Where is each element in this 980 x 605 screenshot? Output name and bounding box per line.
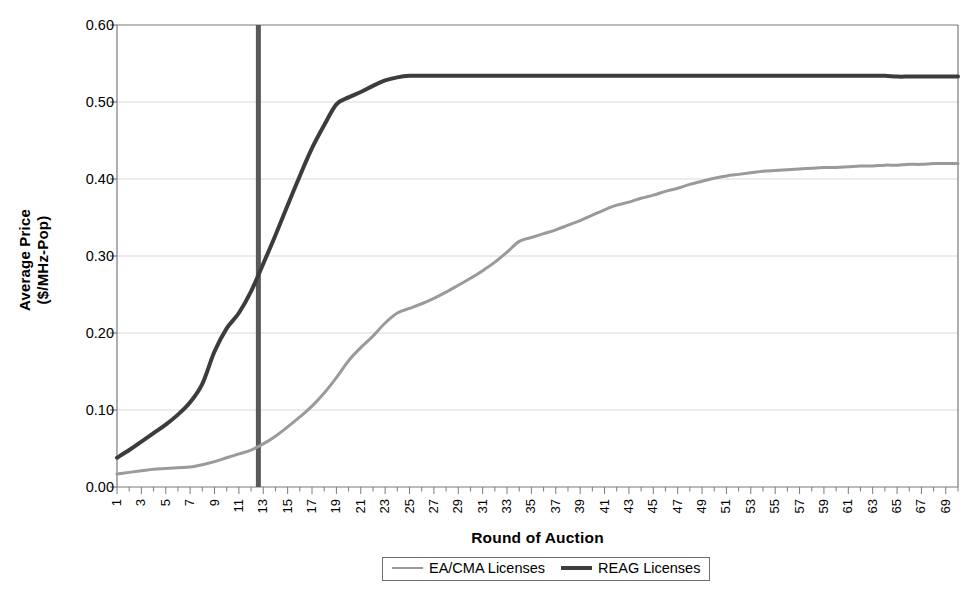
x-axis-tick-label: 31 <box>483 499 490 513</box>
x-axis-tick-label: 63 <box>873 499 880 513</box>
x-axis-tick-label: 43 <box>629 499 636 513</box>
x-axis-tick-label: 3 <box>141 499 148 506</box>
chart-legend: EA/CMA LicensesREAG Licenses <box>382 557 710 581</box>
x-axis-title: Round of Auction <box>117 529 958 547</box>
x-axis-tick-label: 33 <box>507 499 514 513</box>
x-axis-tick-label: 49 <box>702 499 709 513</box>
x-axis-tick-label: 17 <box>312 499 319 513</box>
x-axis-tick-label: 55 <box>775 499 782 513</box>
legend-item-label: REAG Licenses <box>598 561 700 576</box>
x-axis-tick-label: 21 <box>361 499 368 513</box>
chart-figure: 0.000.100.200.300.400.500.60 Average Pri… <box>0 0 980 605</box>
x-axis-tick-label: 5 <box>166 499 173 506</box>
x-axis-tick-label: 29 <box>458 499 465 513</box>
x-axis-tick-label: 45 <box>653 499 660 513</box>
x-axis-tick-label: 57 <box>800 499 807 513</box>
x-axis-tick-label: 59 <box>824 499 831 513</box>
legend-item[interactable]: REAG Licenses <box>561 561 700 576</box>
x-axis-tick-label: 23 <box>385 499 392 513</box>
x-axis-tick-label: 65 <box>897 499 904 513</box>
x-axis-tick-label: 27 <box>434 499 441 513</box>
x-axis-tick-label: 69 <box>946 499 953 513</box>
x-axis-tick-label: 7 <box>190 499 197 506</box>
x-axis-tick-label: 53 <box>751 499 758 513</box>
x-axis-tick-label: 13 <box>263 499 270 513</box>
x-axis-tick-label: 15 <box>288 499 295 513</box>
x-axis-tick-label: 47 <box>678 499 685 513</box>
x-axis-tick-labels: 1357911131517192123252729313335373941434… <box>0 0 980 605</box>
x-axis-tick-label: 67 <box>921 499 928 513</box>
x-axis-tick-label: 51 <box>726 499 733 513</box>
legend-item-label: EA/CMA Licenses <box>429 561 545 576</box>
x-axis-tick-label: 41 <box>605 499 612 513</box>
x-axis-tick-label: 37 <box>556 499 563 513</box>
x-axis-tick-label: 9 <box>215 499 222 506</box>
x-axis-tick-label: 39 <box>580 499 587 513</box>
legend-item[interactable]: EA/CMA Licenses <box>392 561 545 576</box>
x-axis-tick-label: 19 <box>336 499 343 513</box>
legend-line-swatch-icon <box>561 566 592 570</box>
x-axis-tick-label: 61 <box>848 499 855 513</box>
x-axis-tick-label: 25 <box>410 499 417 513</box>
legend-line-swatch-icon <box>392 567 423 569</box>
x-axis-tick-label: 11 <box>239 499 246 513</box>
x-axis-tick-label: 35 <box>531 499 538 513</box>
x-axis-tick-label: 1 <box>117 499 124 506</box>
